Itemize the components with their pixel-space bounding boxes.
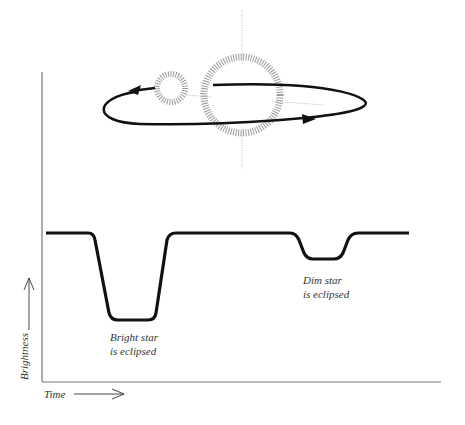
dim-label-line2: is eclipsed bbox=[303, 287, 349, 301]
bright-label-line1: Bright star bbox=[110, 330, 158, 344]
x-axis-label: Time bbox=[44, 387, 65, 401]
brightness-arrow-icon bbox=[24, 278, 34, 330]
large-star bbox=[211, 64, 273, 126]
binary-star-illustration bbox=[104, 10, 366, 170]
dim-label-line1: Dim star bbox=[303, 273, 349, 287]
light-curve bbox=[46, 233, 409, 320]
time-arrow-icon bbox=[74, 389, 124, 399]
small-star bbox=[157, 74, 185, 102]
dim-star-eclipsed-label: Dim star is eclipsed bbox=[303, 273, 349, 301]
bright-label-line2: is eclipsed bbox=[110, 344, 158, 358]
bright-star-eclipsed-label: Bright star is eclipsed bbox=[110, 330, 158, 358]
diagram-canvas bbox=[0, 0, 465, 425]
orbit-arrow-right-icon bbox=[302, 114, 316, 124]
y-axis-label: Brightness bbox=[18, 333, 30, 380]
